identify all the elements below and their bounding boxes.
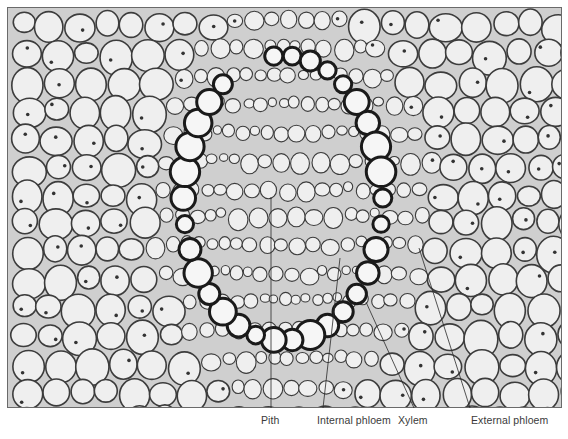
xylem-leader-line [366, 302, 414, 408]
internal-phloem-leader-line [323, 258, 340, 408]
external-phloem-label: External phloem [471, 414, 548, 426]
pith-label: Pith [261, 414, 280, 426]
leader-lines [0, 0, 568, 439]
micrograph-figure: Pith Internal phloem Xylem External phlo… [0, 0, 568, 439]
internal-phloem-label: Internal phloem [317, 414, 391, 426]
external-phloem-leader-line [419, 248, 470, 408]
xylem-label: Xylem [398, 414, 428, 426]
